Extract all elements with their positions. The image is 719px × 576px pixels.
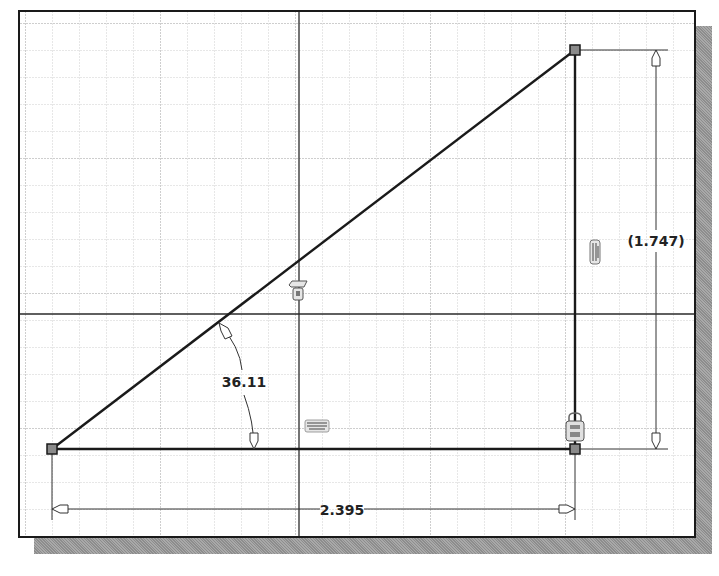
top-point[interactable]: [570, 45, 580, 55]
horizontal-constraint-icon[interactable]: [305, 420, 329, 432]
corner-point[interactable]: [570, 444, 580, 454]
angle-dimension-value[interactable]: 36.11: [222, 374, 266, 390]
horizontal-dimension-value[interactable]: 2.395: [320, 502, 364, 518]
sketch-graphics: 2.395 (1.747) 36.11: [20, 12, 694, 536]
parallel-constraint-icon[interactable]: [590, 240, 600, 264]
start-point[interactable]: [47, 444, 57, 454]
vertical-dimension-value[interactable]: (1.747): [627, 233, 684, 249]
sketch-canvas[interactable]: 2.395 (1.747) 36.11: [18, 10, 696, 538]
sketch-grid: [20, 12, 694, 536]
